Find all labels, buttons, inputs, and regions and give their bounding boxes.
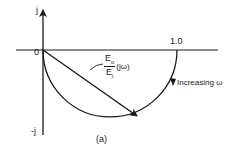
imaginary-negative-label: -j [31,127,36,136]
numerator-subscript: o [111,59,114,65]
denominator-subscript: i [112,73,113,79]
increasing-omega-annotation: Increasing ω [177,79,222,87]
imaginary-positive-label: j [36,6,38,15]
origin-label: 0 [34,48,39,57]
transfer-function-label: Eo Ei (jω) [104,54,130,79]
argument: (jω) [116,62,129,71]
direction-arrow-icon [170,78,176,86]
figure-caption: (a) [96,135,107,144]
real-unit-label: 1.0 [170,37,183,46]
numerator: Eo [104,54,115,67]
polar-plot-diagram: j 0 -j 1.0 Eo Ei (jω) Increasing ω (a) [0,0,237,153]
denominator: Ei [106,67,113,79]
label-leader-line [90,64,103,70]
